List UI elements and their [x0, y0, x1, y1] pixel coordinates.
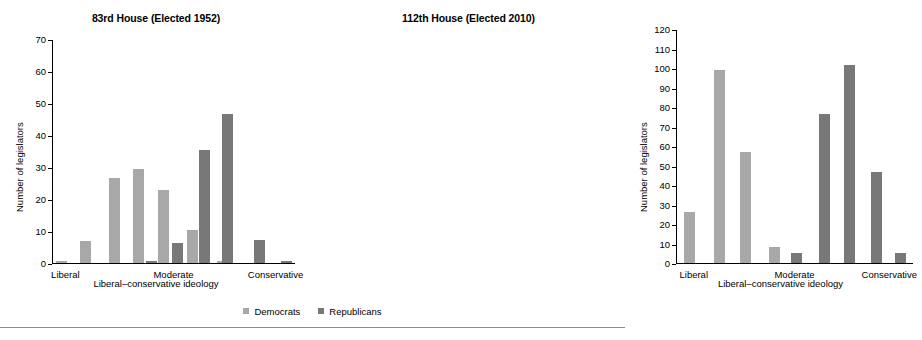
bar	[871, 172, 882, 263]
x-axis-label-left: Liberal–conservative ideology	[0, 278, 312, 289]
bar	[769, 247, 780, 263]
y-tick-label: 90	[659, 84, 670, 94]
y-tick-mark	[672, 245, 676, 246]
bar	[791, 253, 802, 263]
y-axis-label-right: Number of legislators	[638, 122, 649, 212]
y-tick-label: 40	[35, 131, 46, 141]
bar	[714, 70, 725, 263]
y-axis-label-left: Number of legislators	[14, 122, 25, 212]
y-tick-label: 30	[659, 201, 670, 211]
y-tick-label: 70	[35, 35, 46, 45]
bar	[80, 241, 91, 263]
bar	[684, 212, 695, 263]
y-tick-label: 40	[659, 181, 670, 191]
chart-panel-right: 112th House (Elected 2010) Number of leg…	[312, 0, 625, 300]
legend-swatch-republicans-icon	[318, 308, 324, 314]
bar	[187, 230, 198, 263]
y-tick-mark	[672, 69, 676, 70]
y-tick-mark	[672, 186, 676, 187]
y-tick-mark	[48, 40, 52, 41]
bar	[222, 114, 233, 263]
bar	[199, 150, 210, 263]
y-tick-label: 60	[659, 142, 670, 152]
bar	[133, 169, 144, 263]
y-tick-label: 20	[659, 220, 670, 230]
y-tick-label: 100	[654, 64, 670, 74]
y-tick-label: 70	[659, 123, 670, 133]
y-tick-label: 0	[665, 259, 670, 269]
legend-swatch-democrats-icon	[243, 308, 249, 314]
bar	[819, 114, 830, 264]
bar	[146, 261, 157, 263]
bar	[158, 190, 169, 263]
y-tick-label: 10	[659, 240, 670, 250]
y-tick-mark	[48, 136, 52, 137]
y-tick-mark	[48, 200, 52, 201]
x-axis-line-right	[676, 263, 913, 264]
chart-title-left: 83rd House (Elected 1952)	[0, 12, 312, 24]
y-tick-mark	[672, 147, 676, 148]
legend-label-republicans: Republicans	[329, 306, 381, 317]
y-tick-mark	[48, 104, 52, 105]
chart-panel-left: 83rd House (Elected 1952) Number of legi…	[0, 0, 312, 300]
y-tick-mark	[672, 89, 676, 90]
y-tick-mark	[48, 232, 52, 233]
y-tick-mark	[672, 30, 676, 31]
bar	[740, 152, 751, 263]
bar	[254, 240, 265, 263]
y-tick-mark	[672, 128, 676, 129]
y-tick-label: 80	[659, 103, 670, 113]
y-tick-mark	[48, 264, 52, 265]
chart-legend: Democrats Republicans	[0, 300, 625, 322]
plot-area-left: 010203040506070 LiberalModerateConservat…	[52, 40, 295, 264]
y-tick-mark	[48, 168, 52, 169]
y-tick-mark	[672, 225, 676, 226]
footer-divider	[0, 327, 625, 328]
y-tick-mark	[48, 72, 52, 73]
bar-group-right	[677, 30, 913, 263]
plot-area-right: 0102030405060708090100110120 LiberalMode…	[676, 30, 913, 264]
bar	[56, 261, 67, 263]
legend-item-democrats: Democrats	[243, 306, 300, 317]
bar	[895, 253, 906, 263]
y-tick-label: 60	[35, 67, 46, 77]
legend-item-republicans: Republicans	[318, 306, 381, 317]
bar	[281, 261, 292, 263]
y-tick-label: 20	[35, 195, 46, 205]
bar	[109, 178, 120, 263]
x-axis-line-left	[52, 263, 295, 264]
y-tick-mark	[672, 206, 676, 207]
x-axis-label-right: Liberal–conservative ideology	[624, 278, 922, 289]
y-tick-label: 0	[41, 259, 46, 269]
bar	[844, 65, 855, 263]
bar	[172, 243, 183, 263]
legend-label-democrats: Democrats	[254, 306, 300, 317]
bar-group-left	[53, 40, 295, 263]
y-tick-label: 110	[655, 45, 670, 55]
y-tick-mark	[672, 264, 676, 265]
y-tick-label: 50	[35, 99, 46, 109]
y-tick-mark	[672, 50, 676, 51]
y-tick-mark	[672, 108, 676, 109]
chart-title-right: 112th House (Elected 2010)	[312, 12, 625, 24]
y-tick-label: 30	[35, 163, 46, 173]
y-tick-label: 50	[659, 162, 670, 172]
y-tick-label: 120	[654, 25, 670, 35]
y-tick-label: 10	[35, 227, 46, 237]
y-tick-mark	[672, 167, 676, 168]
